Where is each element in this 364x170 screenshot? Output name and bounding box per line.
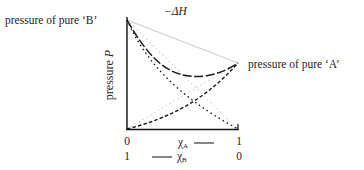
y-axis-label-text: pressure — [102, 57, 116, 100]
ideal-total-pressure-line — [127, 20, 238, 63]
real-total-pressure-curve — [127, 20, 238, 77]
pure-a-pressure-label: pressure of pure ‘A’ — [248, 59, 340, 71]
pure-b-pressure-label: pressure of pure ‘B’ — [5, 15, 97, 27]
y-axis-label-variable: P — [102, 50, 116, 57]
y-axis-label: pressure P — [102, 50, 117, 100]
x-tick-chi-a-1: 1 — [236, 136, 242, 148]
ideal-partial-b-line — [127, 20, 238, 129]
x-tick-chi-b-0: 0 — [236, 151, 242, 163]
x-tick-chi-b-1: 1 — [124, 151, 130, 163]
chi-a-label: χA — [178, 137, 188, 150]
chi-b-label: χB — [177, 151, 187, 164]
ideal-partial-a-line — [127, 63, 238, 129]
title-enthalpy-label: −ΔH — [164, 6, 187, 18]
x-tick-chi-a-0: 0 — [124, 136, 130, 148]
chi-a-subscript: A — [183, 142, 188, 150]
chi-b-subscript: B — [182, 156, 187, 164]
